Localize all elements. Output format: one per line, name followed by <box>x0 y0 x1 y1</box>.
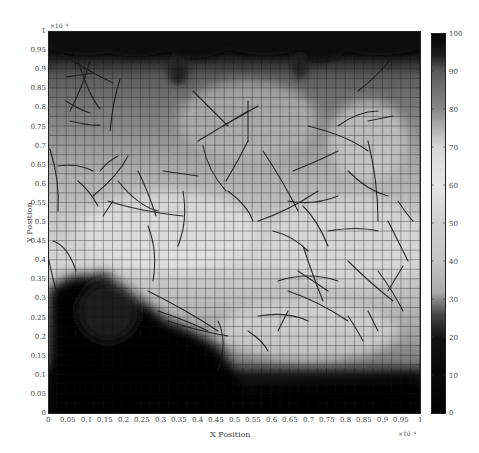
colorbar-tick: 10 <box>449 373 458 380</box>
y-tick: 0.75 <box>30 124 46 131</box>
y-axis-label: Y Position <box>25 198 34 248</box>
x-tick: 0.6 <box>266 417 277 424</box>
x-tick: 0.5 <box>229 417 240 424</box>
x-tick: 0.7 <box>303 417 314 424</box>
y-tick: 0.7 <box>35 143 46 150</box>
y-tick: 0.9 <box>35 66 46 73</box>
colorbar-tick: 30 <box>449 297 458 304</box>
y-tick: 0.3 <box>35 295 46 302</box>
y-tick: 0.6 <box>35 181 46 188</box>
x-tick: 0.55 <box>245 417 261 424</box>
y-tick: 0.85 <box>30 85 46 92</box>
x-tick: 0.65 <box>282 417 298 424</box>
x-tick: 1 <box>418 417 422 424</box>
colorbar-tick: 60 <box>449 183 458 190</box>
x-tick: 0.9 <box>377 417 388 424</box>
y-tick: 0.25 <box>30 315 46 322</box>
x-tick: 0.25 <box>134 417 150 424</box>
y-tick: 0.95 <box>30 47 46 54</box>
colorbar-tick: 100 <box>449 31 462 38</box>
colorbar-tick: 80 <box>449 107 458 114</box>
colorbar-tick: 50 <box>449 221 458 228</box>
colorbar-tick: 90 <box>449 69 458 76</box>
heatmap-plot <box>48 31 421 414</box>
colorbar-tick: 70 <box>449 145 458 152</box>
colorbar <box>431 33 446 414</box>
x-tick: 0.15 <box>97 417 113 424</box>
colorbar-tick: 40 <box>449 259 458 266</box>
y-tick: 0.1 <box>35 372 46 379</box>
y-tick: 0.4 <box>35 257 46 264</box>
x-tick: 0.4 <box>192 417 203 424</box>
x-tick: 0.2 <box>118 417 129 424</box>
y-tick: 0.05 <box>30 391 46 398</box>
x-axis-label: X Position <box>210 430 251 439</box>
y-tick: 0.15 <box>30 353 46 360</box>
x-tick: 0.05 <box>60 417 76 424</box>
x-tick: 0.45 <box>208 417 224 424</box>
y-exponent-label: ×10⁻⁴ <box>50 22 68 29</box>
x-tick: 0.1 <box>81 417 92 424</box>
x-tick: 0.8 <box>340 417 351 424</box>
y-tick: 0.35 <box>30 276 46 283</box>
y-tick: 0.2 <box>35 334 46 341</box>
x-tick: 0.75 <box>319 417 335 424</box>
y-tick: 1 <box>42 28 46 35</box>
x-tick: 0.3 <box>155 417 166 424</box>
y-tick: 0.5 <box>35 219 46 226</box>
x-tick: 0 <box>46 417 50 424</box>
y-tick: 0.65 <box>30 162 46 169</box>
x-tick: 0.35 <box>171 417 187 424</box>
colorbar-tick: 0 <box>449 410 453 417</box>
colorbar-tick: 20 <box>449 335 458 342</box>
x-tick: 0.95 <box>393 417 409 424</box>
x-tick: 0.85 <box>356 417 372 424</box>
x-exponent-label: ×10⁻⁴ <box>398 430 416 437</box>
y-tick: 0.8 <box>35 104 46 111</box>
